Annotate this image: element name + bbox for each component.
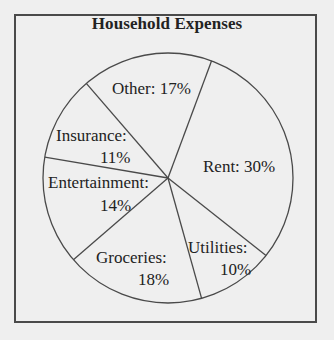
- label-insurance-name: Insurance:: [56, 125, 127, 147]
- label-groceries-value: 18%: [138, 269, 169, 291]
- label-entertainment-name: Entertainment:: [48, 172, 149, 194]
- label-utilities-value: 10%: [220, 259, 251, 281]
- label-other: Other: 17%: [112, 78, 191, 100]
- label-groceries-name: Groceries:: [96, 247, 167, 269]
- label-entertainment-value: 14%: [100, 195, 131, 217]
- label-utilities-name: Utilities:: [188, 237, 248, 259]
- label-insurance-value: 11%: [100, 147, 131, 169]
- label-rent: Rent: 30%: [203, 156, 275, 178]
